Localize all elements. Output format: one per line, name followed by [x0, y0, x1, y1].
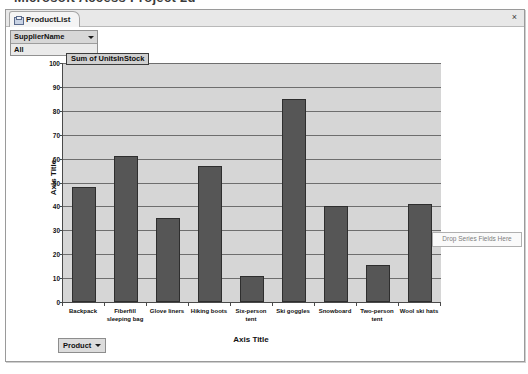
bar[interactable] [324, 206, 348, 302]
x-tick-label: Glove liners [146, 308, 188, 332]
bar[interactable] [366, 265, 390, 302]
x-tick-mark [272, 302, 273, 306]
bar-slot [273, 63, 315, 302]
plot-area: 0102030405060708090100 [62, 63, 441, 303]
x-tick-label: Wool ski hats [398, 308, 440, 332]
y-tick-label: 70 [53, 131, 60, 138]
x-tick-label: Snowboard [314, 308, 356, 332]
bar-series [63, 63, 441, 302]
bar-slot [399, 63, 441, 302]
y-tick-label: 50 [53, 179, 60, 186]
close-icon[interactable]: × [509, 12, 520, 23]
y-tick-label: 10 [53, 275, 60, 282]
form-window: ProductList × SupplierName All Axis Titl… [5, 9, 525, 362]
x-tick-mark [104, 302, 105, 306]
window-titlebar: ProductList × [6, 10, 524, 27]
x-tick-label: Fiberfill sleeping bag [104, 308, 146, 332]
form-icon [14, 16, 23, 24]
clipped-heading-fragment: Microsoft Access Project 2d [0, 0, 528, 9]
bar[interactable] [408, 204, 432, 302]
pivotchart: Axis Title 0102030405060708090100 Sum of… [20, 53, 440, 353]
x-tick-mark [146, 302, 147, 306]
bar-slot [231, 63, 273, 302]
x-tick-mark [398, 302, 399, 306]
x-tick-label: Six-person tent [230, 308, 272, 332]
bar[interactable] [198, 166, 222, 302]
filter-header[interactable]: SupplierName [11, 31, 97, 44]
y-tick-label: 80 [53, 107, 60, 114]
x-axis-ticks [62, 302, 440, 307]
access-pivotchart-window: Microsoft Access Project 2d ProductList … [0, 0, 528, 374]
bar-slot [357, 63, 399, 302]
product-field-button[interactable]: Product [58, 338, 106, 353]
x-tick-mark [356, 302, 357, 306]
x-tick-label: Two-person tent [356, 308, 398, 332]
bar-slot [147, 63, 189, 302]
x-tick-mark [188, 302, 189, 306]
x-tick-label: Ski goggles [272, 308, 314, 332]
y-tick-label: 30 [53, 227, 60, 234]
y-tick-label: 40 [53, 203, 60, 210]
y-tick-label: 0 [56, 299, 60, 306]
x-tick-label: Hiking boots [188, 308, 230, 332]
bar[interactable] [156, 218, 180, 302]
y-tick-label: 90 [53, 83, 60, 90]
x-tick-label: Backpack [62, 308, 104, 332]
x-tick-mark [314, 302, 315, 306]
chevron-down-icon[interactable] [88, 36, 94, 39]
bar[interactable] [282, 99, 306, 302]
bar[interactable] [72, 187, 96, 302]
x-axis-labels: BackpackFiberfill sleeping bagGlove line… [62, 308, 440, 332]
bar-slot [105, 63, 147, 302]
bar[interactable] [240, 276, 264, 302]
drop-series-fields-label: Drop Series Fields Here [442, 236, 511, 243]
bar-slot [315, 63, 357, 302]
chevron-down-icon[interactable] [95, 344, 101, 347]
y-tick-label: 100 [49, 60, 60, 67]
y-tick-label: 20 [53, 251, 60, 258]
bar-slot [63, 63, 105, 302]
chart-title: Sum of UnitsInStock [66, 53, 149, 65]
filter-field-label: SupplierName [14, 33, 64, 41]
bar[interactable] [114, 156, 138, 302]
product-field-label: Product [63, 342, 91, 350]
x-tick-mark [440, 302, 441, 306]
x-axis-title: Axis Title [62, 335, 440, 344]
window-body: SupplierName All Axis Title 010203040506… [6, 27, 524, 361]
drop-series-fields-zone[interactable]: Drop Series Fields Here [432, 232, 522, 247]
y-tick-label: 60 [53, 155, 60, 162]
tab-label: ProductList [26, 16, 70, 24]
clipped-heading-text: Microsoft Access Project 2d [14, 0, 196, 5]
bar-slot [189, 63, 231, 302]
x-tick-mark [62, 302, 63, 306]
tab-productlist[interactable]: ProductList [9, 11, 80, 27]
x-tick-mark [230, 302, 231, 306]
